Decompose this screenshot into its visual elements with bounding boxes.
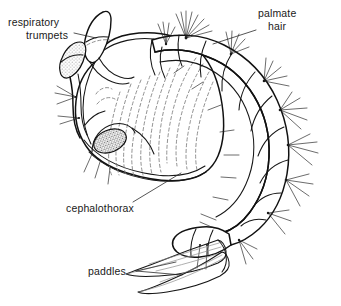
- palmate-hair-tuft-d: [263, 58, 289, 86]
- label-paddles: paddles: [88, 265, 126, 277]
- label-cephalothorax: cephalothorax: [66, 202, 135, 214]
- mosquito-pupa-figure: respiratory trumpets palmate hair cephal…: [0, 0, 341, 306]
- label-palmate-hair-line2: hair: [268, 20, 286, 32]
- paddle-lower-vein-1: [160, 255, 222, 282]
- palmate-hair-tuft-f: [287, 134, 318, 165]
- palmate-hair-tuft-h: [267, 210, 291, 234]
- leader-paddles-2: [136, 271, 182, 275]
- leader-palmate-hair: [213, 30, 256, 44]
- label-respiratory-trumpets-line1: respiratory: [8, 16, 60, 28]
- label-palmate-hair-line1: palmate: [258, 7, 296, 19]
- label-respiratory-trumpets-line2: trumpets: [26, 29, 68, 41]
- palmate-hair-tuft-i: [238, 239, 257, 264]
- palmate-hair-tuft-g: [285, 174, 313, 206]
- figure-canvas: respiratory trumpets palmate hair cephal…: [0, 0, 341, 306]
- leader-paddles: [136, 262, 176, 271]
